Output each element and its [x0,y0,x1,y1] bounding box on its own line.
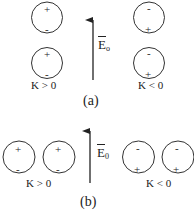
charge-sign: - [147,3,151,14]
charge-sign: - [136,143,140,154]
panel-caption-b: (b) [80,195,96,209]
panel-caption-a: (a) [83,94,99,108]
group-label-k-negative: K < 0 [138,80,163,91]
field-label-b: E0 [97,146,109,161]
group-label-k-negative: K < 0 [146,178,171,189]
field-label-a: Eo [98,38,110,53]
charge-sign: - [56,164,60,175]
group-label-k-positive: K > 0 [26,178,51,189]
charge-sign: + [173,164,179,175]
charge-sign: - [147,48,151,59]
charge-sign: - [45,24,49,35]
charge-sign: + [15,144,21,155]
group-label-k-positive: K > 0 [31,80,56,91]
charge-sign: + [55,144,61,155]
charge-sign: - [175,143,179,154]
charge-sign: - [16,164,20,175]
charge-sign: + [145,24,151,35]
charge-sign: + [44,4,50,15]
charge-sign: + [44,49,50,60]
charge-sign: + [134,164,140,175]
